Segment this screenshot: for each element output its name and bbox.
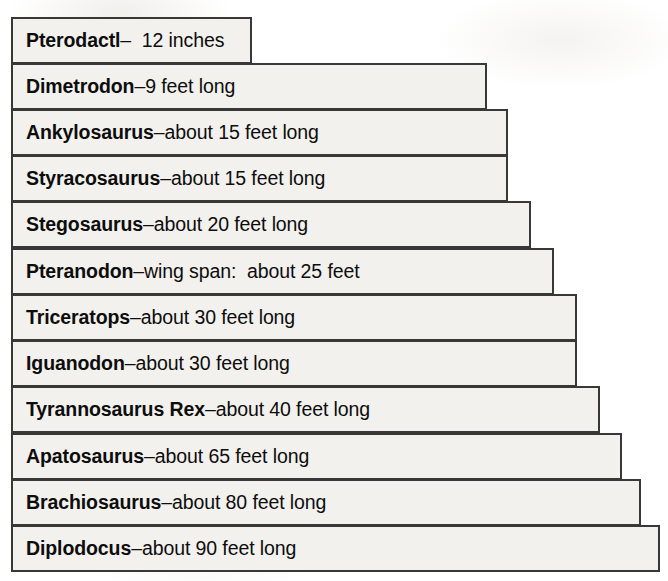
bar-list: Pterodactl– 12 inchesDimetrodon–9 feet l… — [0, 0, 668, 581]
name-separator: – — [133, 260, 144, 282]
dinosaur-size-description: about 30 feet long — [141, 306, 295, 328]
name-separator: – — [143, 213, 154, 235]
dinosaur-name: Pterodactl — [26, 29, 120, 51]
name-separator: – — [125, 352, 136, 374]
bar-label: Apatosaurus–about 65 feet long — [13, 447, 309, 467]
dinosaur-name: Triceratops — [26, 306, 130, 328]
dinosaur-size-description: about 40 feet long — [216, 398, 370, 420]
bar-row: Styracosaurus–about 15 feet long — [11, 155, 508, 202]
bar-row: Apatosaurus–about 65 feet long — [11, 433, 622, 480]
bar-row: Pteranodon–wing span: about 25 feet — [11, 248, 554, 295]
bar-label: Triceratops–about 30 feet long — [13, 308, 295, 328]
bar-label: Brachiosaurus–about 80 feet long — [13, 493, 326, 513]
bar-row: Ankylosaurus–about 15 feet long — [11, 109, 508, 156]
bar-label: Pteranodon–wing span: about 25 feet — [13, 262, 360, 282]
dinosaur-name: Iguanodon — [26, 352, 125, 374]
dinosaur-name: Styracosaurus — [26, 167, 160, 189]
dinosaur-size-description: about 20 feet long — [154, 213, 308, 235]
name-separator: – — [160, 167, 171, 189]
bar-label: Iguanodon–about 30 feet long — [13, 354, 290, 374]
name-separator: – — [130, 306, 141, 328]
dinosaur-name: Tyrannosaurus Rex — [26, 398, 205, 420]
name-separator: – — [154, 121, 165, 143]
dinosaur-size-description: about 90 feet long — [142, 537, 296, 559]
name-separator: – — [205, 398, 216, 420]
dinosaur-size-description: about 15 feet long — [165, 121, 319, 143]
dinosaur-name: Apatosaurus — [26, 445, 144, 467]
bar-label: Ankylosaurus–about 15 feet long — [13, 123, 319, 143]
bar-label: Stegosaurus–about 20 feet long — [13, 215, 308, 235]
bar-row: Dimetrodon–9 feet long — [11, 63, 487, 110]
name-separator: – — [134, 75, 145, 97]
bar-row: Stegosaurus–about 20 feet long — [11, 201, 531, 248]
dinosaur-size-description: 12 inches — [131, 29, 224, 51]
bar-row: Triceratops–about 30 feet long — [11, 294, 577, 341]
dinosaur-name: Pteranodon — [26, 260, 133, 282]
name-separator: – — [120, 29, 131, 51]
dinosaur-size-description: about 65 feet long — [155, 445, 309, 467]
bar-row: Tyrannosaurus Rex–about 40 feet long — [11, 386, 600, 433]
name-separator: – — [161, 491, 172, 513]
bar-label: Dimetrodon–9 feet long — [13, 77, 235, 97]
dinosaur-size-description: wing span: about 25 feet — [144, 260, 359, 282]
dinosaur-size-description: about 15 feet long — [171, 167, 325, 189]
bar-label: Pterodactl– 12 inches — [13, 31, 224, 51]
bar-label: Tyrannosaurus Rex–about 40 feet long — [13, 400, 370, 420]
bar-row: Diplodocus–about 90 feet long — [11, 525, 660, 572]
bar-row: Pterodactl– 12 inches — [11, 17, 252, 64]
dinosaur-name: Stegosaurus — [26, 213, 143, 235]
dinosaur-size-description: about 80 feet long — [172, 491, 326, 513]
bar-label: Styracosaurus–about 15 feet long — [13, 169, 325, 189]
name-separator: – — [131, 537, 142, 559]
dinosaur-name: Brachiosaurus — [26, 491, 161, 513]
dinosaur-size-chart: Pterodactl– 12 inchesDimetrodon–9 feet l… — [0, 0, 668, 581]
bar-row: Brachiosaurus–about 80 feet long — [11, 479, 641, 526]
dinosaur-size-description: about 30 feet long — [136, 352, 290, 374]
dinosaur-name: Ankylosaurus — [26, 121, 154, 143]
name-separator: – — [144, 445, 155, 467]
dinosaur-name: Diplodocus — [26, 537, 131, 559]
bar-row: Iguanodon–about 30 feet long — [11, 340, 577, 387]
dinosaur-name: Dimetrodon — [26, 75, 134, 97]
bar-label: Diplodocus–about 90 feet long — [13, 539, 296, 559]
dinosaur-size-description: 9 feet long — [145, 75, 235, 97]
